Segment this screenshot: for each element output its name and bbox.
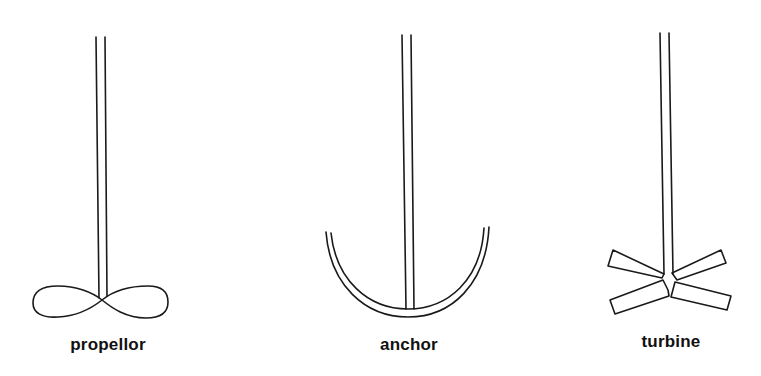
- anchor-label: anchor: [380, 335, 438, 355]
- anchor-shaft: [402, 35, 414, 309]
- anchor-arm: [326, 227, 489, 317]
- propellor-shaft: [96, 37, 107, 298]
- propellor-blades: [33, 286, 168, 318]
- turbine-shaft: [660, 33, 673, 274]
- impeller-diagram: [0, 0, 761, 376]
- propellor-impeller: [33, 37, 168, 318]
- turbine-label: turbine: [641, 332, 700, 352]
- anchor-impeller: [326, 35, 489, 317]
- propellor-label: propellor: [70, 335, 145, 355]
- turbine-impeller: [608, 33, 731, 314]
- turbine-blades: [608, 250, 731, 314]
